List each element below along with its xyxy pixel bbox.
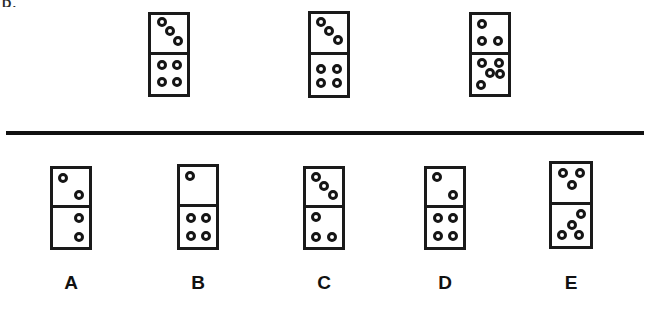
sequence-domino-prompt-2-bottom-half xyxy=(311,55,347,96)
pip xyxy=(448,231,458,241)
pip xyxy=(493,36,503,46)
answer-domino-a-bottom-half xyxy=(53,208,89,247)
pip xyxy=(311,232,321,242)
answer-domino-e[interactable] xyxy=(549,161,593,249)
sequence-domino-prompt-3 xyxy=(469,12,511,97)
pip xyxy=(172,77,182,87)
pip xyxy=(157,17,167,27)
pip xyxy=(311,212,321,222)
answer-domino-e-bottom-half xyxy=(552,205,590,246)
pip xyxy=(185,171,195,181)
pip xyxy=(477,19,487,29)
pip xyxy=(74,213,84,223)
sequence-domino-prompt-2 xyxy=(308,11,350,98)
sequence-domino-prompt-1 xyxy=(148,12,190,97)
answer-domino-a-top-half xyxy=(53,169,89,208)
pip xyxy=(557,230,567,240)
pip xyxy=(476,80,486,90)
pip xyxy=(311,172,321,182)
pip xyxy=(567,180,577,190)
pip xyxy=(172,60,182,70)
answer-domino-c-bottom-half xyxy=(306,208,342,247)
pip xyxy=(316,78,326,88)
pip xyxy=(567,220,577,230)
answer-domino-b-bottom-half xyxy=(180,207,216,247)
pip xyxy=(328,190,338,200)
option-label-d[interactable]: D xyxy=(425,272,465,294)
answer-domino-e-top-half xyxy=(552,164,590,205)
answer-domino-c-top-half xyxy=(306,169,342,208)
pip xyxy=(201,213,211,223)
pip xyxy=(165,26,175,36)
section-divider xyxy=(6,131,644,135)
pip xyxy=(333,35,343,45)
sequence-domino-prompt-1-top-half xyxy=(151,15,187,55)
option-label-a[interactable]: A xyxy=(51,272,91,294)
answer-domino-b[interactable] xyxy=(177,164,219,250)
answer-domino-c[interactable] xyxy=(303,166,345,250)
pip xyxy=(477,36,487,46)
answer-domino-a[interactable] xyxy=(50,166,92,250)
pip xyxy=(576,209,586,219)
sequence-domino-prompt-3-top-half xyxy=(472,15,508,55)
corner-mark: D. xyxy=(2,0,28,7)
pip xyxy=(332,64,342,74)
pip xyxy=(495,69,505,79)
pip xyxy=(574,230,584,240)
option-label-c[interactable]: C xyxy=(304,272,344,294)
pip xyxy=(157,77,167,87)
pip xyxy=(448,190,458,200)
answer-domino-d-bottom-half xyxy=(427,208,463,247)
answer-domino-d[interactable] xyxy=(424,166,466,250)
pip xyxy=(448,213,458,223)
sequence-domino-prompt-3-bottom-half xyxy=(472,55,508,95)
pip xyxy=(173,36,183,46)
pip xyxy=(319,181,329,191)
pip xyxy=(433,231,443,241)
puzzle-canvas: D. ABCDE xyxy=(0,0,650,314)
pip xyxy=(494,58,504,68)
pip xyxy=(433,213,443,223)
answer-domino-b-top-half xyxy=(180,167,216,207)
pip xyxy=(316,64,326,74)
pip xyxy=(157,60,167,70)
answer-domino-d-top-half xyxy=(427,169,463,208)
pip xyxy=(186,213,196,223)
pip xyxy=(485,68,495,78)
pip xyxy=(74,190,84,200)
pip xyxy=(58,173,68,183)
option-label-e[interactable]: E xyxy=(551,272,591,294)
sequence-domino-prompt-2-top-half xyxy=(311,14,347,55)
pip xyxy=(432,172,442,182)
pip xyxy=(558,168,568,178)
option-label-b[interactable]: B xyxy=(178,272,218,294)
pip xyxy=(324,26,334,36)
pip xyxy=(201,231,211,241)
pip xyxy=(74,232,84,242)
sequence-domino-prompt-1-bottom-half xyxy=(151,55,187,95)
pip xyxy=(316,17,326,27)
pip xyxy=(575,168,585,178)
pip xyxy=(477,58,487,68)
pip xyxy=(332,78,342,88)
pip xyxy=(327,232,337,242)
pip xyxy=(186,231,196,241)
